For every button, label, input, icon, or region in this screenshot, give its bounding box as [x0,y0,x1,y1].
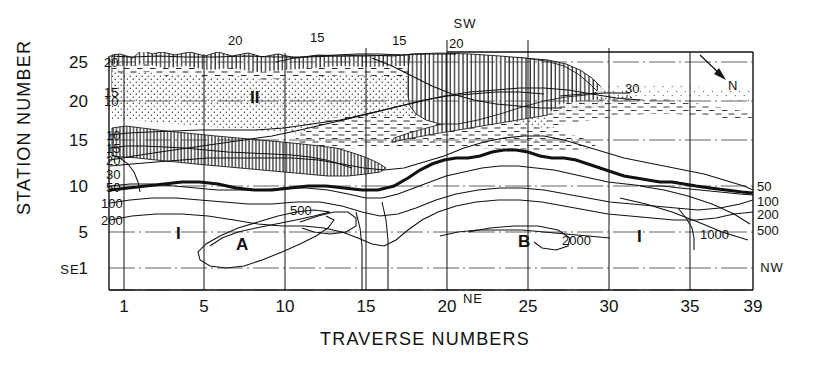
x-tick-35: 35 [681,297,700,316]
interior-label-20b: 20 [449,36,463,51]
anomaly-label-B: B [518,232,530,251]
x-tick-1: 1 [119,297,128,316]
zone-label-I-right: I [637,227,642,246]
x-tick-30: 30 [600,297,619,316]
y-tick-1: 1 [79,259,88,278]
y-tick-5: 5 [79,223,88,242]
x-axis-title: TRAVERSE NUMBERS [320,329,530,349]
left-label-200: 200 [101,213,123,228]
right-label-50: 50 [757,179,771,194]
right-label-500: 500 [757,223,779,238]
left-label-100: 100 [101,196,123,211]
x-tick-25: 25 [519,297,538,316]
left-label-10a: 10 [104,94,118,109]
y-tick-15: 15 [69,131,88,150]
y-tick-20: 20 [69,92,88,111]
y-axis-title: STATION NUMBER [14,40,34,215]
interior-label-15a: 15 [310,30,324,45]
x-tick-39: 39 [744,297,763,316]
left-label-50: 50 [106,180,120,195]
zone-label-II: II [250,88,259,107]
interior-label-15b: 15 [392,33,406,48]
x-tick-15: 15 [357,297,376,316]
interior-label-20a: 20 [228,33,242,48]
x-tick-5: 5 [199,297,208,316]
zone-label-I-left: I [176,224,181,243]
left-label-20b: 20 [106,153,120,168]
right-label-200: 200 [757,207,779,222]
compass-se: SE [60,262,79,277]
interior-label-30: 30 [625,81,639,96]
compass-nw: NW [760,260,784,275]
compass-sw: SW [454,16,477,31]
y-tick-25: 25 [69,53,88,72]
y-tick-10: 10 [69,177,88,196]
left-label-20a: 20 [104,55,118,70]
interior-label-2000: 2000 [562,233,591,248]
anomaly-label-A: A [236,235,248,254]
geophysical-contour-figure: STATION NUMBER TRAVERSE NUMBERS 25 20 15… [0,0,819,365]
interior-label-1000: 1000 [700,227,729,242]
figure-canvas: STATION NUMBER TRAVERSE NUMBERS 25 20 15… [0,0,819,365]
interior-label-500: 500 [290,203,312,218]
x-tick-20: 20 [438,297,457,316]
north-arrow-label: N [728,78,738,93]
x-tick-10: 10 [276,297,295,316]
compass-ne: NE [463,291,483,306]
